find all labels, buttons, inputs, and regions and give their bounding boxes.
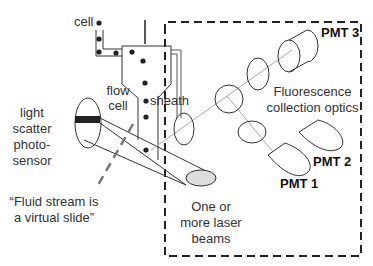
virtual-slide-quote-line2: a virtual slide” bbox=[2, 210, 106, 225]
flow-cell-label-line2: cell bbox=[103, 98, 133, 113]
light-scatter-label-line4: sensor bbox=[0, 153, 64, 168]
cell-label: cell bbox=[74, 14, 94, 29]
light-scatter-label-line3: photo- bbox=[0, 137, 64, 152]
pmt1-detector bbox=[268, 143, 310, 176]
pmt3-label: PMT 3 bbox=[321, 25, 359, 40]
light-scatter-label-line1: light bbox=[0, 105, 64, 120]
flow-cell-label-line1: flow bbox=[103, 83, 133, 98]
pmt1-label: PMT 1 bbox=[280, 176, 318, 191]
fluorescence-label-line2: collection optics bbox=[260, 100, 365, 115]
fluorescence-label-line1: Fluorescence bbox=[265, 84, 360, 99]
pmt2-label: PMT 2 bbox=[313, 154, 351, 169]
pmt2-detector bbox=[299, 120, 343, 151]
light-scatter-label-line2: scatter bbox=[0, 121, 64, 136]
laser-beams-label-line1: One or bbox=[176, 199, 246, 214]
laser-beams-label-line2: more laser bbox=[176, 215, 246, 230]
virtual-slide-pointer bbox=[98, 124, 133, 185]
laser-spot bbox=[186, 170, 216, 186]
sheath-label: sheath bbox=[150, 93, 189, 108]
virtual-slide-quote-line1: “Fluid stream is bbox=[2, 194, 106, 209]
laser-beams-label-line3: beams bbox=[176, 231, 246, 246]
photosensor-band bbox=[75, 116, 100, 123]
pmt3-detector bbox=[278, 30, 318, 72]
